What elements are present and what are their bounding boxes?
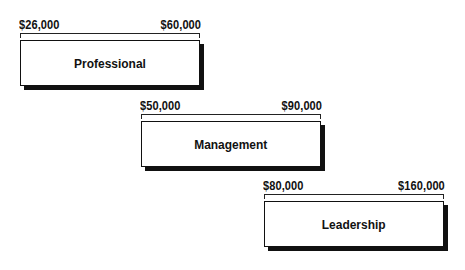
range-max-label: $90,000 (281, 99, 322, 113)
range-max-label: $160,000 (398, 179, 445, 193)
band-management: $50,000 $90,000 Management (141, 99, 321, 171)
band-box: Leadership (264, 201, 444, 247)
band-professional: $26,000 $60,000 Professional (20, 18, 200, 90)
range-min-label: $50,000 (140, 99, 181, 113)
range-bracket (141, 114, 321, 119)
band-label: Management (194, 137, 267, 152)
band-box: Professional (20, 40, 200, 86)
band-leadership: $80,000 $160,000 Leadership (264, 179, 444, 251)
band-box: Management (141, 121, 321, 167)
range-max-label: $60,000 (160, 18, 201, 32)
range-min-label: $80,000 (263, 179, 304, 193)
range-bracket (264, 194, 444, 199)
band-label: Professional (74, 56, 146, 71)
range-min-label: $26,000 (19, 18, 60, 32)
range-bracket (20, 33, 200, 38)
band-label: Leadership (322, 217, 386, 232)
